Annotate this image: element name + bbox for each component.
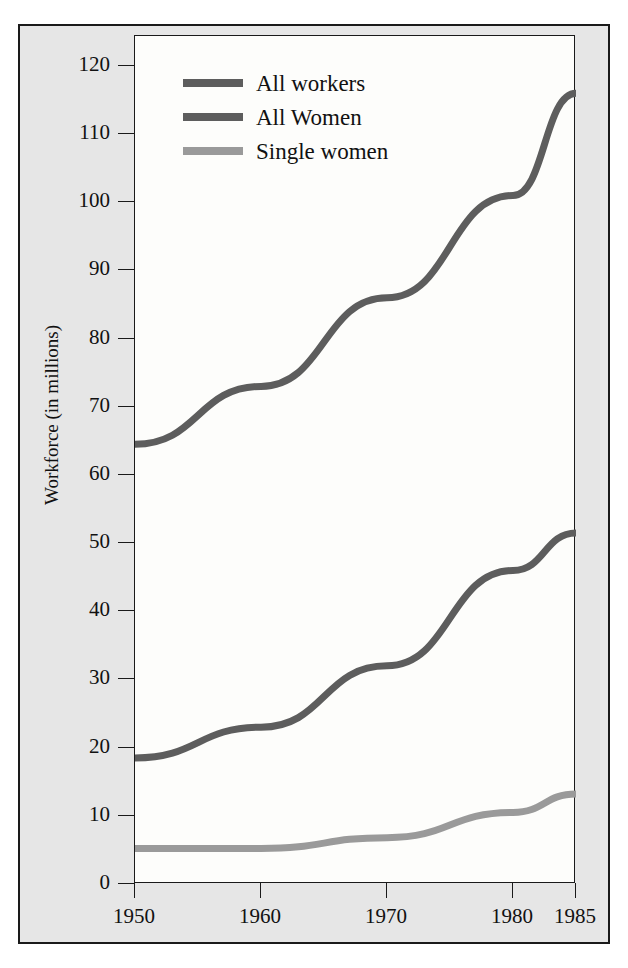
y-axis-tick <box>118 747 134 748</box>
y-axis-tick <box>118 542 134 543</box>
y-axis-label: 70 <box>50 395 110 416</box>
x-axis-label: 1970 <box>341 906 431 927</box>
x-axis-tick <box>386 883 387 898</box>
y-axis-label: 20 <box>50 736 110 757</box>
legend-item: Single women <box>183 134 388 168</box>
y-axis-label: 100 <box>50 190 110 211</box>
x-axis-label: 1950 <box>89 906 179 927</box>
legend-label: Single women <box>256 140 388 163</box>
x-axis-tick <box>575 883 576 898</box>
y-axis-label: 90 <box>50 258 110 279</box>
y-axis-tick <box>118 406 134 407</box>
y-axis-tick <box>118 474 134 475</box>
figure-root: Workforce (in millions) 0102030405060708… <box>0 0 628 968</box>
y-axis-label: 30 <box>50 667 110 688</box>
y-axis-label: 50 <box>50 531 110 552</box>
legend-label: All workers <box>256 72 365 95</box>
y-axis-label: 110 <box>50 122 110 143</box>
y-axis-tick <box>118 610 134 611</box>
x-axis-tick <box>134 883 135 898</box>
y-axis-tick <box>118 201 134 202</box>
chart-panel: Workforce (in millions) 0102030405060708… <box>18 24 610 944</box>
x-axis-label: 1960 <box>215 906 305 927</box>
y-axis-tick <box>118 133 134 134</box>
x-axis-tick <box>260 883 261 898</box>
legend-swatch-icon <box>183 79 243 87</box>
y-axis-label: 120 <box>50 54 110 75</box>
y-axis-label: 80 <box>50 327 110 348</box>
y-axis-label: 0 <box>50 872 110 893</box>
x-axis-label: 1985 <box>530 906 620 927</box>
y-axis-tick <box>118 269 134 270</box>
legend-label: All Women <box>256 106 362 129</box>
legend-swatch-icon <box>183 113 243 121</box>
y-axis-tick <box>118 678 134 679</box>
legend-item: All Women <box>183 100 388 134</box>
chart-legend: All workersAll WomenSingle women <box>183 66 388 168</box>
line-series-all-women <box>135 533 576 758</box>
line-series-single-women <box>135 794 576 849</box>
y-axis-tick <box>118 815 134 816</box>
legend-item: All workers <box>183 66 388 100</box>
plot-area: All workersAll WomenSingle women <box>134 35 575 883</box>
legend-swatch-icon <box>183 147 243 155</box>
y-axis-label: 10 <box>50 804 110 825</box>
y-axis-label: 40 <box>50 599 110 620</box>
x-axis-tick <box>512 883 513 898</box>
y-axis-tick <box>118 883 134 884</box>
y-axis-tick <box>118 338 134 339</box>
y-axis-label: 60 <box>50 463 110 484</box>
y-axis-tick <box>118 65 134 66</box>
